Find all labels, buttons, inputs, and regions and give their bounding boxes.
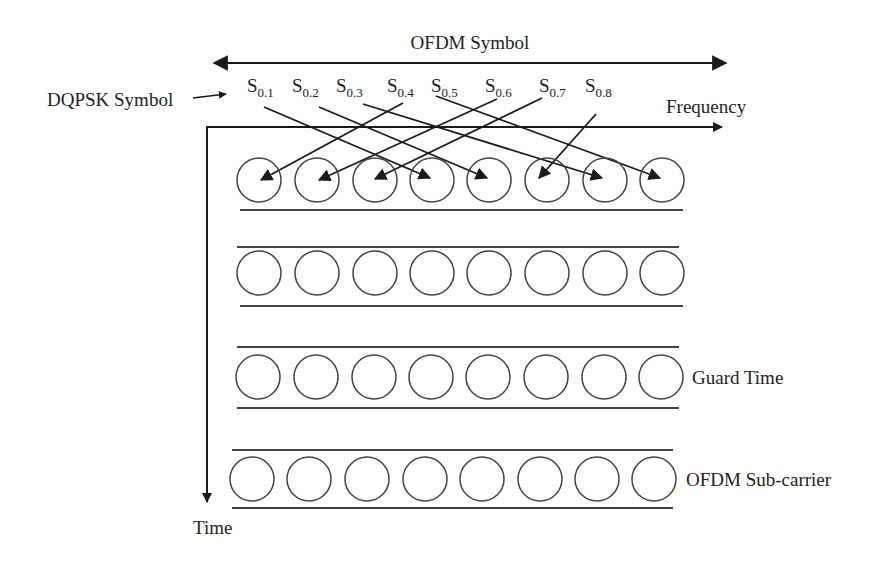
- ofdm-symbol-span: OFDM Symbol: [214, 32, 726, 63]
- subcarrier-circle: [353, 158, 397, 202]
- symbol-label: S0.1: [247, 75, 274, 100]
- symbol-label: S0.8: [585, 75, 612, 100]
- time-label: Time: [193, 517, 232, 538]
- subcarrier-circle: [294, 355, 338, 399]
- subcarrier-circle: [466, 355, 510, 399]
- subcarrier-circle: [525, 158, 569, 202]
- subcarrier-circle: [295, 251, 339, 295]
- symbol-label: S0.7: [539, 75, 566, 100]
- subcarrier-circle: [460, 457, 504, 501]
- symbol-label: S0.4: [387, 75, 414, 100]
- ofdm-subcarrier-label: OFDM Sub-carrier: [686, 469, 832, 490]
- subcarrier-circle: [345, 457, 389, 501]
- axes: Frequency Time: [193, 96, 747, 538]
- interleaving-arrows: [261, 96, 660, 180]
- subcarrier-circle: [640, 158, 684, 202]
- ofdm-row-1: [237, 158, 684, 210]
- frequency-label: Frequency: [666, 96, 747, 117]
- guard-time-label: Guard Time: [692, 367, 783, 388]
- axis-lines: [207, 127, 720, 500]
- subcarrier-circle: [524, 355, 568, 399]
- subcarrier-circle: [467, 158, 511, 202]
- subcarrier-circle: [295, 158, 339, 202]
- ofdm-symbol-label: OFDM Symbol: [411, 32, 530, 53]
- mapping-arrow-s08: [539, 114, 596, 178]
- symbol-label: S0.5: [431, 75, 458, 100]
- symbol-label: S0.6: [485, 75, 512, 100]
- subcarrier-circle: [410, 158, 454, 202]
- subcarrier-circle: [639, 355, 683, 399]
- subcarrier-circle: [409, 355, 453, 399]
- dqpsk-symbol-label: DQPSK Symbol: [47, 89, 173, 110]
- subcarrier-circle: [237, 158, 281, 202]
- pointer-arrow-icon: [193, 94, 226, 98]
- subcarrier-circle: [410, 251, 454, 295]
- ofdm-interleaving-diagram: OFDM Symbol DQPSK Symbol S0.1 S0.2 S0.3 …: [0, 0, 892, 568]
- subcarrier-circle: [632, 457, 676, 501]
- ofdm-row-3: [236, 347, 683, 408]
- subcarrier-circle: [583, 251, 627, 295]
- subcarrier-circle: [352, 355, 396, 399]
- subcarrier-circle: [236, 355, 280, 399]
- ofdm-row-4: [230, 450, 676, 508]
- dqpsk-symbol-callout: DQPSK Symbol: [47, 89, 226, 110]
- subcarrier-circle: [640, 251, 684, 295]
- subcarrier-circle: [582, 355, 626, 399]
- subcarrier-circle: [525, 251, 569, 295]
- symbol-label: S0.3: [336, 75, 363, 100]
- subcarrier-circle: [237, 251, 281, 295]
- subcarrier-circle: [403, 457, 447, 501]
- ofdm-row-2: [237, 247, 684, 306]
- symbol-labels: S0.1 S0.2 S0.3 S0.4 S0.5 S0.6 S0.7 S0.8: [247, 75, 612, 100]
- symbol-label: S0.2: [292, 75, 319, 100]
- subcarrier-circle: [575, 457, 619, 501]
- subcarrier-circle: [287, 457, 331, 501]
- subcarrier-circle: [230, 457, 274, 501]
- subcarrier-circle: [353, 251, 397, 295]
- subcarrier-circle: [518, 457, 562, 501]
- subcarrier-circle: [467, 251, 511, 295]
- subcarrier-circle: [583, 158, 627, 202]
